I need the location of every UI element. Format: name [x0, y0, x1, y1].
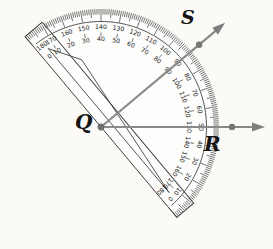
point-label-r: R — [204, 134, 221, 154]
scale-number: 140 — [95, 23, 107, 30]
point-on-ray-qs — [196, 42, 202, 48]
geometry-figure: 1801701601501401301201101009080706050403… — [0, 0, 273, 249]
scale-number: 50 — [112, 36, 121, 44]
protractor-diagram-canvas: 1801701601501401301201101009080706050403… — [0, 0, 273, 249]
scale-number: 40 — [196, 140, 204, 149]
scale-number: 40 — [97, 35, 105, 42]
point-on-ray-qr — [229, 124, 235, 130]
vertex-label-q: Q — [75, 112, 92, 132]
point-label-s: S — [181, 8, 195, 27]
scale-number: 30 — [81, 36, 90, 44]
ray-qr-arrowhead — [252, 123, 265, 132]
scale-number: 60 — [196, 105, 204, 114]
protractor-group: 1801701601501401301201101009080706050403… — [25, 0, 267, 217]
point-q — [98, 124, 105, 131]
